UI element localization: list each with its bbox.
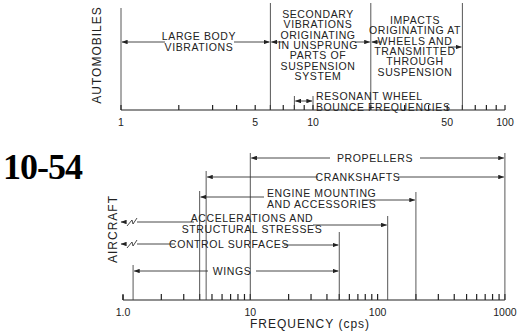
label-large-body-vibrations: VIBRATIONS xyxy=(165,41,234,53)
tick-label: 10 xyxy=(307,116,319,128)
label-secondary-vibrations: SYSTEM xyxy=(295,70,342,82)
tick-label: 100 xyxy=(369,306,387,318)
tick-label: 50 xyxy=(441,116,453,128)
y-axis-label-automobiles: AUTOMOBILES xyxy=(90,6,104,103)
break-symbol xyxy=(127,218,137,226)
tick-label: 1.0 xyxy=(116,306,131,318)
label-crankshafts: CRANKSHAFTS xyxy=(316,171,401,183)
automobiles-panel: AUTOMOBILES151050100LARGE BODYVIBRATIONS… xyxy=(90,3,514,128)
label-propellers: PROPELLERS xyxy=(337,152,413,164)
label-resonant-wheel: BOUNCE FREQUENCIES xyxy=(316,101,450,113)
label-engine-mounting: AND ACCESSORIES xyxy=(267,198,376,210)
frequency-range-diagram: AUTOMOBILES151050100LARGE BODYVIBRATIONS… xyxy=(0,0,521,335)
tick-label: 100 xyxy=(496,116,514,128)
tick-label: 5 xyxy=(252,116,258,128)
y-axis-label-aircraft: AIRCRAFT xyxy=(106,195,120,263)
label-wings: WINGS xyxy=(213,265,252,277)
break-symbol xyxy=(127,240,137,248)
tick-label: 1 xyxy=(118,116,124,128)
aircraft-panel: AIRCRAFT1.0101001000FREQUENCY (cps)PROPE… xyxy=(106,152,517,331)
label-impacts: SUSPENSION xyxy=(378,66,453,78)
tick-label: 1000 xyxy=(493,306,517,318)
label-control-surfaces: CONTROL SURFACES xyxy=(169,238,289,250)
label-accelerations: STRUCTURAL STRESSES xyxy=(182,223,323,235)
x-axis-label-frequency: FREQUENCY (cps) xyxy=(250,317,370,331)
